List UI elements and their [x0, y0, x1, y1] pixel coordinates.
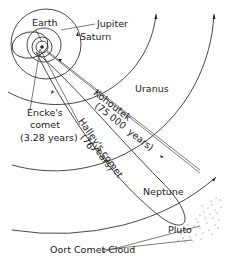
- pluto-arrow: [212, 177, 216, 182]
- oort-cloud: [178, 198, 222, 243]
- label-jupiter: Jupiter: [96, 18, 128, 29]
- label-neptune: Neptune: [143, 186, 184, 197]
- sun: [40, 45, 44, 49]
- label-saturn: Saturn: [80, 31, 111, 42]
- label-oort: Oort Comet Cloud: [50, 244, 135, 255]
- label-encke-2: comet: [30, 119, 60, 130]
- earth-pointer: [36, 30, 42, 42]
- label-uranus: Uranus: [135, 83, 169, 94]
- label-pluto: Pluto: [168, 224, 192, 235]
- halley-arrow: [51, 90, 54, 94]
- saturn-arrow: [76, 32, 79, 36]
- label-encke-1: Encke's: [27, 107, 63, 118]
- label-earth: Earth: [32, 17, 57, 28]
- kohoutek-arrow: [160, 155, 164, 158]
- neptune-arrow: [213, 14, 216, 19]
- uranus-orbit: [8, 14, 156, 105]
- neptune-orbit: [12, 14, 214, 171]
- uranus-arrow: [155, 14, 158, 19]
- solar-system-diagram: Earth Jupiter Saturn Uranus Neptune Plut…: [0, 0, 230, 267]
- label-encke-3: (3.28 years): [20, 132, 78, 143]
